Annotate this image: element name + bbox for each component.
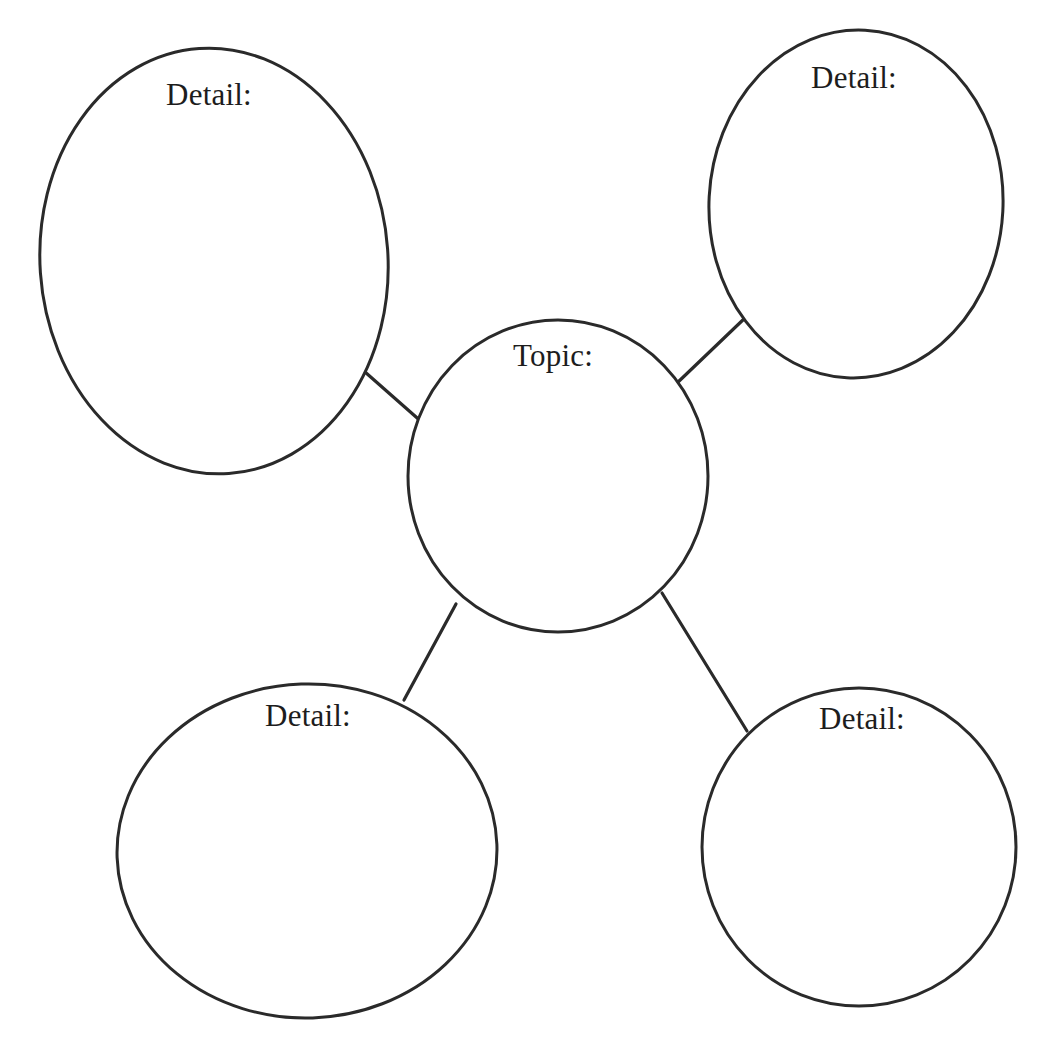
topic-node-center[interactable]: Topic: [408, 320, 708, 632]
topic-center-label: Topic: [513, 338, 593, 373]
detail-top-right-label: Detail: [811, 60, 897, 95]
connector-bottom-right-line [662, 593, 747, 731]
connector-top-left-line [365, 372, 424, 424]
detail-node-bottom-right[interactable]: Detail: [702, 688, 1016, 1006]
detail-node-top-right[interactable]: Detail: [700, 23, 1012, 386]
detail-node-top-left[interactable]: Detail: [26, 36, 403, 485]
connector-bottom-left-line [404, 604, 456, 700]
graphic-organizer-canvas: Detail: Detail: Detail: Detail: Topic: [0, 0, 1051, 1059]
connector-top-right-line [676, 317, 746, 384]
detail-bottom-right-label: Detail: [819, 701, 905, 736]
detail-bottom-left-label: Detail: [265, 698, 351, 733]
detail-node-bottom-left[interactable]: Detail: [111, 677, 502, 1024]
organizer-diagram: Detail: Detail: Detail: Detail: Topic: [0, 0, 1051, 1059]
detail-top-left-label: Detail: [166, 77, 252, 112]
